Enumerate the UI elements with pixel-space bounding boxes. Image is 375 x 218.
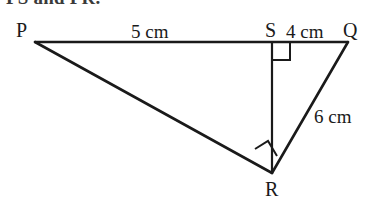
vertex-label-P: P — [16, 20, 27, 40]
vertex-label-S: S — [265, 20, 276, 40]
vertex-label-Q: Q — [343, 20, 357, 40]
geometry-figure: PS and PR. P S Q R 5 cm 4 cm 6 cm — [0, 0, 375, 218]
measurement-label-SQ: 4 cm — [286, 22, 323, 41]
measurement-label-PS: 5 cm — [131, 22, 168, 41]
vertex-label-R: R — [265, 179, 278, 199]
right-angle-marker-S — [272, 42, 290, 60]
right-angle-marker-R — [255, 141, 277, 156]
measurement-label-QR: 6 cm — [314, 107, 351, 126]
segment-PR — [35, 42, 272, 173]
